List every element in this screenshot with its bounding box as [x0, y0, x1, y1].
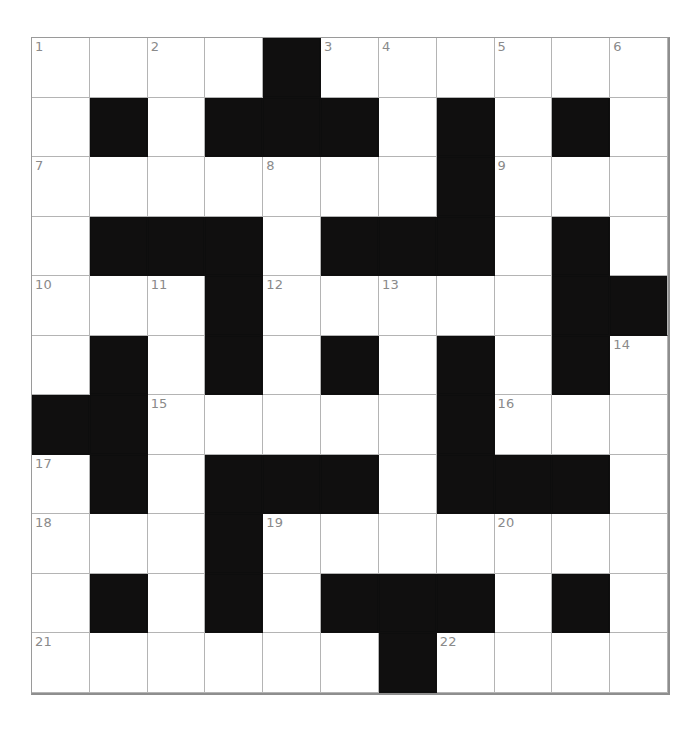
crossword-block-cell — [205, 455, 263, 515]
cell-clue-number: 12 — [266, 277, 283, 292]
crossword-cell[interactable] — [379, 336, 437, 396]
crossword-cell[interactable] — [90, 38, 148, 98]
crossword-cell[interactable] — [32, 336, 90, 396]
crossword-grid[interactable]: 12345678910111213141516171819202122 — [31, 37, 670, 695]
crossword-cell[interactable] — [379, 157, 437, 217]
crossword-cell[interactable] — [90, 514, 148, 574]
crossword-block-cell — [263, 98, 321, 158]
crossword-cell[interactable] — [263, 217, 321, 277]
crossword-block-cell — [263, 455, 321, 515]
crossword-cell[interactable] — [379, 98, 437, 158]
crossword-cell[interactable]: 22 — [437, 633, 495, 693]
crossword-cell[interactable] — [495, 217, 553, 277]
crossword-cell[interactable] — [610, 633, 668, 693]
crossword-cell[interactable]: 9 — [495, 157, 553, 217]
crossword-cell[interactable] — [32, 574, 90, 634]
crossword-cell[interactable]: 13 — [379, 276, 437, 336]
crossword-cell[interactable] — [610, 98, 668, 158]
crossword-block-cell — [552, 217, 610, 277]
crossword-cell[interactable] — [205, 157, 263, 217]
crossword-block-cell — [552, 336, 610, 396]
crossword-cell[interactable]: 19 — [263, 514, 321, 574]
crossword-cell[interactable] — [148, 514, 206, 574]
crossword-cell[interactable]: 3 — [321, 38, 379, 98]
crossword-cell[interactable] — [552, 38, 610, 98]
crossword-cell[interactable] — [552, 514, 610, 574]
crossword-cell[interactable] — [495, 336, 553, 396]
crossword-cell[interactable] — [148, 98, 206, 158]
crossword-cell[interactable]: 12 — [263, 276, 321, 336]
crossword-cell[interactable] — [205, 395, 263, 455]
crossword-cell[interactable] — [437, 38, 495, 98]
cell-clue-number: 13 — [382, 277, 399, 292]
crossword-cell[interactable]: 17 — [32, 455, 90, 515]
crossword-cell[interactable] — [552, 633, 610, 693]
crossword-block-cell — [437, 157, 495, 217]
crossword-cell[interactable]: 21 — [32, 633, 90, 693]
crossword-cell[interactable]: 14 — [610, 336, 668, 396]
crossword-cell[interactable] — [610, 395, 668, 455]
crossword-cell[interactable] — [495, 574, 553, 634]
crossword-cell[interactable] — [437, 514, 495, 574]
crossword-cell[interactable] — [148, 336, 206, 396]
crossword-cell[interactable] — [495, 98, 553, 158]
crossword-cell[interactable]: 20 — [495, 514, 553, 574]
crossword-cell[interactable] — [321, 633, 379, 693]
crossword-cell[interactable] — [90, 276, 148, 336]
crossword-cell[interactable] — [263, 574, 321, 634]
crossword-cell[interactable]: 5 — [495, 38, 553, 98]
crossword-cell[interactable] — [379, 455, 437, 515]
crossword-cell[interactable] — [610, 217, 668, 277]
cell-clue-number: 2 — [151, 39, 159, 54]
crossword-cell[interactable] — [205, 633, 263, 693]
crossword-block-cell — [321, 336, 379, 396]
crossword-block-cell — [437, 217, 495, 277]
crossword-cell[interactable] — [379, 395, 437, 455]
crossword-block-cell — [32, 395, 90, 455]
crossword-cell[interactable] — [263, 395, 321, 455]
crossword-cell[interactable] — [90, 633, 148, 693]
crossword-cell[interactable] — [552, 395, 610, 455]
crossword-cell[interactable] — [90, 157, 148, 217]
crossword-cell[interactable] — [205, 38, 263, 98]
crossword-block-cell — [321, 98, 379, 158]
crossword-cell[interactable] — [32, 217, 90, 277]
cell-clue-number: 14 — [613, 337, 630, 352]
crossword-cell[interactable]: 16 — [495, 395, 553, 455]
crossword-cell[interactable]: 7 — [32, 157, 90, 217]
crossword-cell[interactable] — [32, 98, 90, 158]
cell-clue-number: 21 — [35, 634, 52, 649]
crossword-cell[interactable] — [263, 633, 321, 693]
crossword-cell[interactable]: 18 — [32, 514, 90, 574]
crossword-cell[interactable]: 8 — [263, 157, 321, 217]
crossword-block-cell — [90, 336, 148, 396]
crossword-cell[interactable] — [379, 514, 437, 574]
crossword-cell[interactable] — [321, 157, 379, 217]
crossword-cell[interactable] — [552, 157, 610, 217]
crossword-cell[interactable] — [610, 574, 668, 634]
crossword-block-cell — [205, 574, 263, 634]
crossword-cell[interactable]: 2 — [148, 38, 206, 98]
crossword-cell[interactable] — [321, 395, 379, 455]
crossword-cell[interactable] — [437, 276, 495, 336]
crossword-cell[interactable] — [610, 455, 668, 515]
crossword-cell[interactable]: 15 — [148, 395, 206, 455]
crossword-cell[interactable] — [148, 157, 206, 217]
crossword-cell[interactable] — [495, 276, 553, 336]
crossword-block-cell — [552, 276, 610, 336]
crossword-cell[interactable] — [321, 276, 379, 336]
crossword-cell[interactable] — [610, 514, 668, 574]
crossword-cell[interactable] — [148, 633, 206, 693]
crossword-cell[interactable]: 11 — [148, 276, 206, 336]
crossword-cell[interactable]: 6 — [610, 38, 668, 98]
crossword-cell[interactable]: 1 — [32, 38, 90, 98]
crossword-cell[interactable]: 10 — [32, 276, 90, 336]
crossword-cell[interactable] — [148, 455, 206, 515]
crossword-cell[interactable] — [610, 157, 668, 217]
crossword-cell[interactable] — [263, 336, 321, 396]
crossword-cell[interactable] — [495, 633, 553, 693]
crossword-cell[interactable]: 4 — [379, 38, 437, 98]
crossword-cell[interactable] — [148, 574, 206, 634]
cell-clue-number: 6 — [613, 39, 621, 54]
crossword-cell[interactable] — [321, 514, 379, 574]
